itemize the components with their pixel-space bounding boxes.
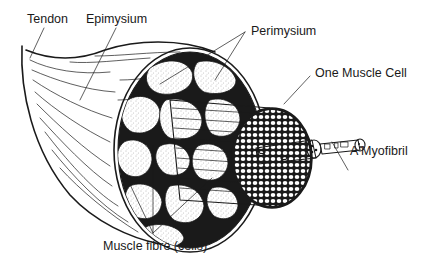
label-one-muscle-cell: One Muscle Cell (315, 66, 407, 80)
muscle-structure-diagram: Tendon Epimysium Perimysium One Muscle C… (0, 0, 425, 268)
label-tendon: Tendon (27, 12, 68, 26)
label-perimysium: Perimysium (251, 24, 316, 38)
label-muscle-fibre: Muscle fibre (cells) (103, 239, 207, 253)
label-myofibril: A Myofibril (350, 144, 408, 158)
label-epimysium: Epimysium (86, 12, 147, 26)
